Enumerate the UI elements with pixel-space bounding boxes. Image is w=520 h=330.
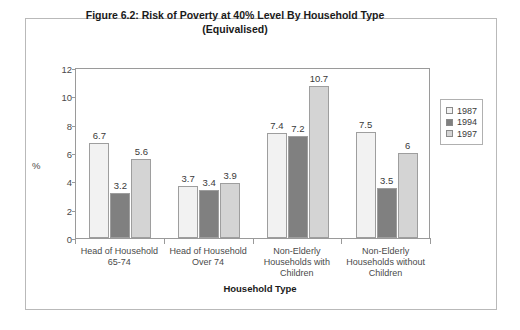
x-axis-category-label-line: Head of Household [71,246,167,257]
legend: 198719941997 [440,99,483,145]
y-axis-tick-label: 12 [61,64,72,75]
x-axis-category-label-line: Over 74 [160,257,256,268]
legend-item[interactable]: 1987 [446,106,477,116]
plot-area: 0246810126.73.25.63.73.43.97.47.210.77.5… [75,68,430,238]
bar-value-label: 6.7 [79,130,119,141]
x-axis-category-label-line: Non-Elderly [249,246,345,257]
x-axis-category-label: Head of HouseholdOver 74 [160,246,256,268]
bar-group: 3.73.43.9 [165,68,254,238]
bar[interactable] [131,159,151,238]
bar[interactable] [377,188,397,238]
y-axis-tick-label: 10 [61,92,72,103]
x-axis-category-label-line: Children [249,268,345,279]
bar[interactable] [309,86,329,238]
bar-group: 6.73.25.6 [76,68,165,238]
x-axis-category-label-line: 65-74 [71,257,167,268]
x-axis-group-separator [164,239,165,244]
bar[interactable] [199,190,219,238]
x-axis-category-label: Non-ElderlyHouseholds withChildren [249,246,345,279]
legend-item[interactable]: 1994 [446,117,477,127]
x-axis-group-separator [430,239,431,244]
legend-swatch [446,119,453,126]
x-axis-category-label: Non-ElderlyHouseholds withoutChildren [338,246,434,279]
legend-item[interactable]: 1997 [446,129,477,139]
y-axis-label: % [32,160,40,171]
bar[interactable] [178,186,198,238]
bar-group: 7.47.210.7 [254,68,343,238]
legend-label: 1997 [457,129,477,139]
x-axis-category-label-line: Households without [338,257,434,268]
bar-group: 7.53.56 [342,68,431,238]
bar-value-label: 7.5 [346,119,386,130]
x-axis-group-separator [75,239,76,244]
chart-title-line-1: Figure 6.2: Risk of Poverty at 40% Level… [40,8,430,22]
legend-label: 1987 [457,106,477,116]
bar-value-label: 3.9 [210,170,250,181]
x-axis-group-separator [253,239,254,244]
bar-value-label: 6 [388,140,428,151]
chart-title-line-2: (Equivalised) [40,22,430,36]
x-axis-category-label-line: Head of Household [160,246,256,257]
bar[interactable] [288,136,308,238]
bar-value-label: 10.7 [299,73,339,84]
bar[interactable] [267,133,287,238]
x-axis-category-label-line: Non-Elderly [338,246,434,257]
x-axis-group-separator [341,239,342,244]
chart-title: Figure 6.2: Risk of Poverty at 40% Level… [40,8,430,36]
x-axis-title: Household Type [0,283,520,294]
bar[interactable] [220,183,240,238]
x-axis-category-label-line: Children [338,268,434,279]
legend-swatch [446,107,453,114]
legend-swatch [446,130,453,137]
bar[interactable] [398,153,418,238]
x-axis-category-label: Head of Household65-74 [71,246,167,268]
legend-label: 1994 [457,117,477,127]
bar[interactable] [110,193,130,238]
bar-value-label: 5.6 [121,146,161,157]
x-axis-category-label-line: Households with [249,257,345,268]
